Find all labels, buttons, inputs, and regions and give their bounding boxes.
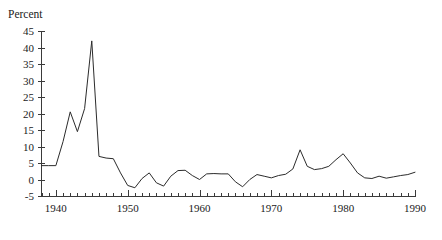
y-axis-tick-label: 45	[23, 25, 35, 37]
y-axis-tick-labels: 454035302520151050-5	[23, 25, 35, 202]
y-axis-tick-label: 10	[23, 141, 35, 153]
x-axis-tick-marks	[43, 190, 416, 197]
line-chart: Percent 454035302520151050-5 19401950196…	[0, 0, 442, 240]
x-axis-tick-label: 1940	[45, 202, 68, 214]
x-axis-tick-label: 1990	[404, 202, 427, 214]
y-axis-tick-label: 35	[23, 58, 35, 70]
chart-container: Percent 454035302520151050-5 19401950196…	[0, 0, 442, 240]
x-axis-tick-labels: 194019501960197019801990	[45, 202, 427, 214]
x-axis-tick-label: 1970	[260, 202, 283, 214]
y-axis-tick-label: 40	[23, 42, 35, 54]
y-axis-tick-label: -5	[25, 190, 35, 202]
x-axis-tick-label: 1960	[189, 202, 212, 214]
y-axis-title: Percent	[8, 8, 43, 20]
y-axis-tick-label: 20	[23, 108, 35, 120]
y-axis-tick-label: 25	[23, 91, 35, 103]
y-axis-tick-label: 30	[23, 75, 35, 87]
y-axis-tick-label: 0	[29, 174, 35, 186]
x-axis-tick-label: 1950	[117, 202, 140, 214]
y-axis-tick-label: 5	[29, 157, 35, 169]
x-axis-tick-label: 1980	[332, 202, 355, 214]
y-axis-tick-label: 15	[23, 124, 35, 136]
data-series-percent	[42, 41, 416, 188]
